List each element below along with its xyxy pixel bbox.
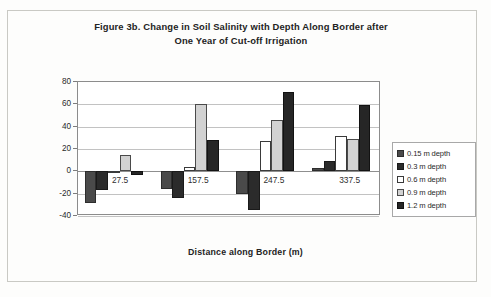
bar	[108, 171, 120, 173]
legend-item[interactable]: 0.15 m depth	[397, 147, 472, 160]
bar	[172, 171, 184, 198]
legend-swatch-icon	[397, 163, 404, 170]
y-axis-tick-label: 0	[45, 166, 71, 175]
bar	[324, 161, 336, 171]
y-axis-tick-label: 80	[45, 77, 71, 86]
chart-title: Figure 3b. Change in Soil Salinity with …	[46, 20, 436, 48]
x-axis-category-label: 27.5	[112, 175, 128, 185]
x-axis-category-label: 247.5	[263, 175, 284, 185]
bar	[161, 171, 173, 189]
legend-item-label: 0.3 m depth	[407, 162, 446, 171]
bar	[260, 141, 272, 171]
legend-swatch-icon	[397, 202, 404, 209]
bar	[85, 171, 97, 202]
x-axis-category-label: 157.5	[188, 175, 209, 185]
legend-item[interactable]: 1.2 m depth	[397, 199, 472, 212]
legend-item-label: 0.6 m depth	[407, 175, 446, 184]
x-axis-category-label: 337.5	[339, 175, 360, 185]
bar	[236, 171, 248, 193]
bar	[248, 171, 260, 210]
bar	[271, 120, 283, 171]
legend-swatch-icon	[397, 189, 404, 196]
legend-swatch-icon	[397, 150, 404, 157]
figure-container: Figure 3b. Change in Soil Salinity with …	[0, 0, 491, 297]
bar	[195, 104, 207, 171]
bar-group	[236, 82, 294, 214]
legend-item[interactable]: 0.3 m depth	[397, 160, 472, 173]
legend-item[interactable]: 0.9 m depth	[397, 186, 472, 199]
bar	[335, 136, 347, 172]
legend-item-label: 0.15 m depth	[407, 149, 450, 158]
y-axis-tick-label: -40	[45, 211, 71, 220]
bar	[207, 140, 219, 171]
y-axis-tick-mark	[73, 215, 77, 216]
gridline	[78, 216, 379, 217]
legend-item[interactable]: 0.6 m depth	[397, 173, 472, 186]
bar	[283, 92, 295, 171]
bar	[120, 155, 132, 172]
chart-legend: 0.15 m depth0.3 m depth0.6 m depth0.9 m …	[392, 142, 476, 217]
bar-group	[161, 82, 219, 214]
bar	[347, 139, 359, 171]
chart-title-line-2: One Year of Cut-off Irrigation	[46, 34, 436, 48]
bar	[359, 105, 371, 171]
y-axis-tick-label: 40	[45, 121, 71, 130]
y-axis-tick-label: 20	[45, 144, 71, 153]
legend-item-label: 1.2 m depth	[407, 201, 446, 210]
bar-group	[85, 82, 143, 214]
bar	[312, 168, 324, 171]
chart-title-line-1: Figure 3b. Change in Soil Salinity with …	[94, 21, 388, 32]
legend-swatch-icon	[397, 176, 404, 183]
plot-area: 27.5157.5247.5337.5	[77, 81, 380, 215]
y-axis-tick-label: -20	[45, 188, 71, 197]
legend-item-label: 0.9 m depth	[407, 188, 446, 197]
bar-group	[312, 82, 370, 214]
y-axis-tick-label: 60	[45, 99, 71, 108]
bar	[184, 167, 196, 171]
bar	[96, 171, 108, 190]
bar	[131, 171, 143, 174]
x-axis-title: Distance along Border (m)	[0, 247, 491, 257]
